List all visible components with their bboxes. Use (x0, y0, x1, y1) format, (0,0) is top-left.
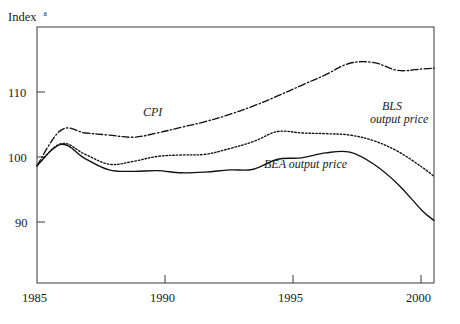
y-tick-label-100: 100 (8, 151, 27, 165)
series-label-bls-line1: BLS (382, 99, 402, 113)
x-tick-label-1985: 1985 (22, 291, 47, 305)
series-label-bls-line2: output price (370, 112, 429, 126)
chart-figure: Index a 110 100 90 1985 1990 1995 2000 (0, 0, 460, 324)
series-label-bea: BEA output price (264, 157, 348, 171)
y-axis-title: Index (8, 10, 37, 24)
y-axis-tick-labels: 110 100 90 (8, 86, 28, 230)
y-tick-label-90: 90 (15, 216, 28, 230)
line-chart: Index a 110 100 90 1985 1990 1995 2000 (0, 0, 460, 324)
plot-frame (37, 27, 434, 283)
y-axis-title-superscript: a (44, 9, 48, 18)
series-line-bea-output-price (37, 144, 434, 220)
series-label-cpi: CPI (143, 105, 163, 119)
x-tick-label-2000: 2000 (406, 291, 431, 305)
x-axis-ticks (165, 275, 421, 283)
x-tick-label-1990: 1990 (150, 291, 175, 305)
x-tick-label-1995: 1995 (278, 291, 303, 305)
series-layer (37, 62, 434, 221)
x-axis-tick-labels: 1985 1990 1995 2000 (22, 291, 431, 305)
y-tick-label-110: 110 (8, 86, 26, 100)
